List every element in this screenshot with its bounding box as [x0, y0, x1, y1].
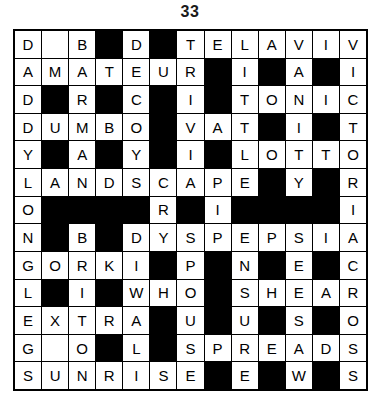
grid-letter-cell[interactable]: O	[42, 252, 68, 279]
grid-letter-cell[interactable]: R	[177, 59, 203, 86]
grid-letter-cell[interactable]: D	[15, 86, 41, 113]
grid-letter-cell[interactable]: S	[123, 169, 149, 196]
grid-letter-cell[interactable]: S	[15, 362, 41, 389]
grid-letter-cell[interactable]: N	[15, 224, 41, 251]
grid-letter-cell[interactable]: I	[286, 114, 312, 141]
grid-letter-cell[interactable]: A	[259, 31, 285, 58]
grid-letter-cell[interactable]: P	[205, 335, 231, 362]
grid-letter-cell[interactable]: D	[123, 31, 149, 58]
grid-letter-cell[interactable]: I	[69, 280, 95, 307]
grid-letter-cell[interactable]: T	[313, 141, 339, 168]
grid-letter-cell[interactable]: A	[42, 169, 68, 196]
grid-letter-cell[interactable]: A	[69, 59, 95, 86]
grid-letter-cell[interactable]: H	[150, 280, 176, 307]
grid-letter-cell[interactable]: D	[123, 224, 149, 251]
grid-letter-cell[interactable]: I	[313, 31, 339, 58]
grid-letter-cell[interactable]: E	[123, 59, 149, 86]
grid-letter-cell[interactable]: A	[340, 224, 366, 251]
grid-letter-cell[interactable]: R	[69, 86, 95, 113]
grid-letter-cell[interactable]: Y	[15, 141, 41, 168]
grid-letter-cell[interactable]: I	[340, 59, 366, 86]
grid-letter-cell[interactable]	[42, 335, 68, 362]
grid-letter-cell[interactable]: E	[205, 31, 231, 58]
crossword-grid[interactable]: DBDTELAVIVAMATEURIAIDRCITONICDUMBOVATITY…	[15, 31, 366, 389]
grid-letter-cell[interactable]	[42, 31, 68, 58]
grid-letter-cell[interactable]: V	[340, 31, 366, 58]
grid-letter-cell[interactable]: R	[96, 362, 122, 389]
grid-letter-cell[interactable]: E	[232, 169, 258, 196]
grid-letter-cell[interactable]: L	[15, 280, 41, 307]
grid-letter-cell[interactable]: N	[286, 86, 312, 113]
grid-letter-cell[interactable]: U	[232, 307, 258, 334]
grid-letter-cell[interactable]: C	[123, 86, 149, 113]
grid-letter-cell[interactable]: O	[69, 335, 95, 362]
grid-letter-cell[interactable]: T	[177, 31, 203, 58]
grid-letter-cell[interactable]: N	[69, 362, 95, 389]
grid-letter-cell[interactable]: I	[340, 197, 366, 224]
grid-letter-cell[interactable]: S	[286, 307, 312, 334]
grid-letter-cell[interactable]: A	[205, 114, 231, 141]
grid-letter-cell[interactable]: H	[259, 280, 285, 307]
grid-letter-cell[interactable]: I	[313, 86, 339, 113]
grid-letter-cell[interactable]: C	[150, 169, 176, 196]
grid-letter-cell[interactable]: I	[123, 362, 149, 389]
grid-letter-cell[interactable]: E	[286, 280, 312, 307]
grid-letter-cell[interactable]: T	[232, 114, 258, 141]
grid-letter-cell[interactable]: R	[150, 197, 176, 224]
grid-letter-cell[interactable]: X	[42, 307, 68, 334]
grid-letter-cell[interactable]: T	[340, 114, 366, 141]
grid-letter-cell[interactable]: P	[259, 224, 285, 251]
grid-letter-cell[interactable]: L	[15, 169, 41, 196]
grid-letter-cell[interactable]: S	[177, 224, 203, 251]
grid-letter-cell[interactable]: K	[96, 252, 122, 279]
grid-letter-cell[interactable]: Y	[150, 224, 176, 251]
grid-letter-cell[interactable]: T	[232, 86, 258, 113]
grid-letter-cell[interactable]: N	[232, 252, 258, 279]
grid-letter-cell[interactable]: I	[205, 197, 231, 224]
grid-letter-cell[interactable]: R	[232, 335, 258, 362]
grid-letter-cell[interactable]: Y	[286, 169, 312, 196]
grid-letter-cell[interactable]: E	[259, 335, 285, 362]
grid-letter-cell[interactable]: P	[177, 252, 203, 279]
grid-letter-cell[interactable]: D	[96, 169, 122, 196]
grid-letter-cell[interactable]: S	[286, 224, 312, 251]
grid-letter-cell[interactable]: I	[177, 86, 203, 113]
grid-letter-cell[interactable]: R	[340, 169, 366, 196]
grid-letter-cell[interactable]: B	[96, 114, 122, 141]
grid-letter-cell[interactable]: L	[232, 141, 258, 168]
grid-letter-cell[interactable]: A	[286, 59, 312, 86]
grid-letter-cell[interactable]: E	[232, 224, 258, 251]
grid-letter-cell[interactable]: I	[123, 252, 149, 279]
grid-letter-cell[interactable]: E	[232, 362, 258, 389]
grid-letter-cell[interactable]: A	[69, 141, 95, 168]
grid-letter-cell[interactable]: N	[69, 169, 95, 196]
grid-letter-cell[interactable]: L	[123, 335, 149, 362]
grid-letter-cell[interactable]: O	[15, 197, 41, 224]
grid-letter-cell[interactable]: R	[69, 252, 95, 279]
grid-letter-cell[interactable]: O	[259, 141, 285, 168]
grid-letter-cell[interactable]: W	[123, 280, 149, 307]
grid-letter-cell[interactable]: L	[232, 31, 258, 58]
grid-letter-cell[interactable]: A	[286, 335, 312, 362]
grid-letter-cell[interactable]: A	[15, 59, 41, 86]
grid-letter-cell[interactable]: U	[42, 362, 68, 389]
grid-letter-cell[interactable]: T	[96, 59, 122, 86]
grid-letter-cell[interactable]: O	[259, 86, 285, 113]
grid-letter-cell[interactable]: E	[15, 307, 41, 334]
grid-letter-cell[interactable]: G	[15, 335, 41, 362]
grid-letter-cell[interactable]: W	[286, 362, 312, 389]
grid-letter-cell[interactable]: P	[205, 169, 231, 196]
grid-letter-cell[interactable]: D	[313, 335, 339, 362]
grid-letter-cell[interactable]: B	[69, 31, 95, 58]
grid-letter-cell[interactable]: I	[177, 141, 203, 168]
grid-letter-cell[interactable]: S	[150, 362, 176, 389]
grid-letter-cell[interactable]: T	[286, 141, 312, 168]
grid-letter-cell[interactable]: E	[177, 362, 203, 389]
grid-letter-cell[interactable]: D	[15, 114, 41, 141]
grid-letter-cell[interactable]: R	[340, 280, 366, 307]
grid-letter-cell[interactable]: S	[177, 335, 203, 362]
grid-letter-cell[interactable]: M	[69, 114, 95, 141]
grid-letter-cell[interactable]: M	[42, 59, 68, 86]
grid-letter-cell[interactable]: C	[340, 252, 366, 279]
grid-letter-cell[interactable]: A	[313, 280, 339, 307]
